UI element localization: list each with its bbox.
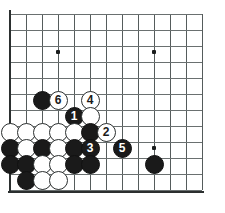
stone-white-move-6: 6 [49,91,68,110]
move-number-label: 6 [55,94,62,106]
stones-layer: 641235 [0,0,225,213]
go-board-diagram: 641235 [0,0,225,213]
stone-black [145,155,164,174]
stone-white-move-2: 2 [97,123,116,142]
move-number-label: 5 [119,142,126,154]
stone-black [81,155,100,174]
move-number-label: 1 [71,110,78,122]
move-number-label: 2 [103,126,110,138]
move-number-label: 3 [87,142,94,154]
stone-black-move-5: 5 [113,139,132,158]
stone-white [49,171,68,190]
move-number-label: 4 [87,94,94,106]
